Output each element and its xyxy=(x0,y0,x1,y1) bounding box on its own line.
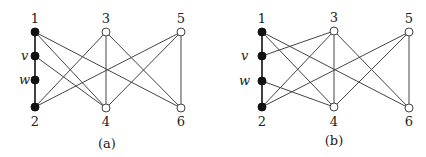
graph-b: 1vw23456(b) xyxy=(239,10,413,148)
edge-w-4 xyxy=(262,81,334,107)
node-2 xyxy=(258,103,266,111)
node-4 xyxy=(330,103,338,111)
node-v xyxy=(258,52,266,60)
caption-b: (b) xyxy=(325,133,343,148)
node-5 xyxy=(177,28,185,36)
node-label-4: 4 xyxy=(102,114,110,129)
node-w xyxy=(31,76,39,84)
node-2 xyxy=(31,103,39,111)
node-1 xyxy=(31,28,39,36)
node-label-2: 2 xyxy=(31,114,39,129)
node-label-6: 6 xyxy=(177,114,185,129)
node-v xyxy=(31,52,39,60)
node-1 xyxy=(258,28,266,36)
node-label-2: 2 xyxy=(258,114,266,129)
node-label-4: 4 xyxy=(330,114,338,129)
node-label-5: 5 xyxy=(405,11,413,26)
caption-a: (a) xyxy=(98,136,116,151)
node-label-w: w xyxy=(239,73,250,88)
node-6 xyxy=(405,104,413,112)
node-w xyxy=(258,77,266,85)
node-label-1: 1 xyxy=(258,11,266,26)
graph-figure: 1vw23456(a) 1vw23456(b) xyxy=(0,0,426,157)
node-label-3: 3 xyxy=(102,11,110,26)
node-label-6: 6 xyxy=(405,114,413,129)
node-3 xyxy=(102,28,110,36)
node-label-v: v xyxy=(241,48,249,63)
node-label-1: 1 xyxy=(31,11,39,26)
node-label-w: w xyxy=(19,72,30,87)
node-3 xyxy=(330,27,338,35)
node-label-3: 3 xyxy=(330,10,338,25)
node-5 xyxy=(405,28,413,36)
node-label-v: v xyxy=(21,48,29,63)
node-4 xyxy=(102,104,110,112)
graph-a: 1vw23456(a) xyxy=(19,11,185,151)
node-6 xyxy=(177,104,185,112)
node-label-5: 5 xyxy=(177,11,185,26)
